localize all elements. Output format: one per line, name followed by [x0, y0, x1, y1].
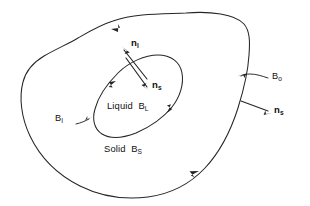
normal-solid-interface-vector-shaft	[126, 58, 147, 87]
normal-solid-outer-vector-shaft	[241, 101, 268, 111]
normal-solid-interface-label: ns	[152, 80, 162, 90]
interface-curve-direction-arrowhead-right	[167, 104, 172, 113]
liquid-region-label: Liquid BL	[107, 101, 149, 111]
interface-boundary-leader-arrowhead	[85, 116, 93, 120]
normal-solid-interface-vector-arrowhead	[141, 83, 149, 90]
outer-boundary-label: Bo	[272, 72, 282, 81]
outer-curve-direction-arrowhead-top	[111, 24, 120, 32]
interface-boundary-label: BI	[55, 114, 63, 123]
diagram-vector-graphics	[0, 0, 310, 206]
normal-liquid-vector-arrowhead	[122, 47, 130, 54]
solid-region-label: Solid BS	[104, 144, 142, 154]
normal-liquid-label: nl	[131, 38, 139, 48]
interface-curve-direction-arrowhead-left	[109, 81, 116, 88]
normal-liquid-vector-shaft	[124, 50, 147, 79]
diagram-canvas: nl ns ns Liquid BL Solid BS BI Bo	[0, 0, 310, 206]
interface-boundary-leader-line	[76, 119, 89, 124]
normal-solid-outer-label: ns	[274, 105, 284, 115]
outer-curve-direction-arrowhead-bottom	[190, 171, 200, 177]
